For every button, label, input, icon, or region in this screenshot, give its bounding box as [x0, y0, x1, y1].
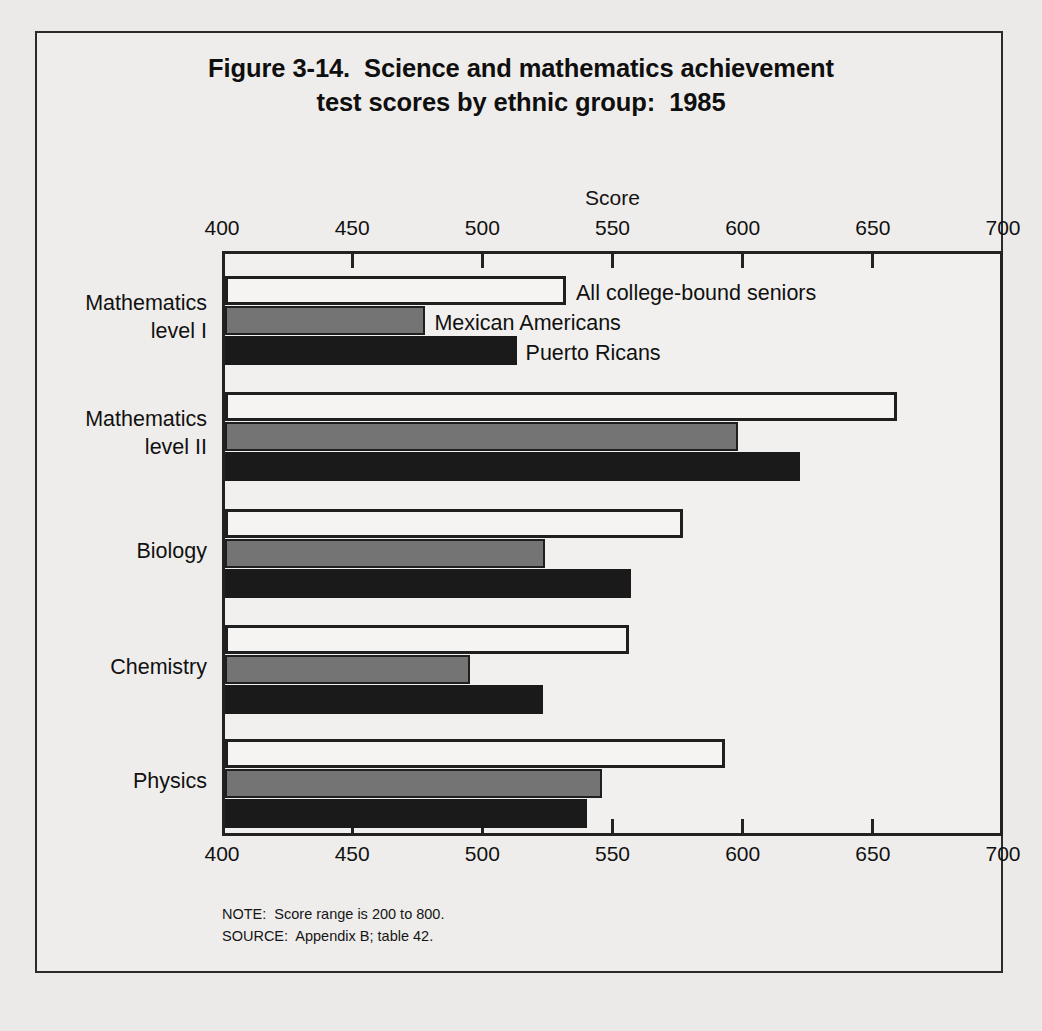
legend-label-puerto-ricans: Puerto Ricans	[526, 343, 661, 365]
category-label-line: Mathematics	[0, 406, 207, 434]
bar-group-biology	[225, 509, 1000, 598]
figure-title: Figure 3-14. Science and mathematics ach…	[0, 52, 1042, 119]
top-tick-mark-550	[611, 254, 614, 268]
x-axis-label: Score	[222, 186, 1003, 210]
top-tick-mark-500	[481, 254, 484, 268]
figure-title-line-1: Figure 3-14. Science and mathematics ach…	[0, 52, 1042, 86]
legend-label-mexican-americans: Mexican Americans	[434, 313, 620, 335]
bottom-axis-tick-650: 650	[855, 842, 890, 866]
category-label-line: Mathematics	[0, 290, 207, 318]
category-label-line: level II	[0, 434, 207, 462]
bar-mathematics-level-ii-puerto-ricans	[225, 452, 800, 481]
bar-chemistry-all-college-bound-seniors	[225, 625, 629, 654]
note-text: NOTE: Score range is 200 to 800.	[222, 903, 444, 925]
source-text: SOURCE: Appendix B; table 42.	[222, 925, 444, 947]
bar-mathematics-level-ii-mexican-americans	[225, 422, 738, 451]
top-tick-mark-450	[351, 254, 354, 268]
category-label-line: level I	[0, 318, 207, 346]
category-label-line: Chemistry	[0, 654, 207, 682]
top-axis-tick-550: 550	[595, 216, 630, 240]
category-label-mathematics-level-i: Mathematicslevel I	[0, 290, 207, 346]
bar-physics-all-college-bound-seniors	[225, 739, 725, 768]
bar-biology-all-college-bound-seniors	[225, 509, 683, 538]
bar-chemistry-puerto-ricans	[225, 685, 543, 714]
top-axis-tick-400: 400	[204, 216, 239, 240]
bar-mathematics-level-i-all-college-bound-seniors	[225, 276, 566, 305]
bar-physics-puerto-ricans	[225, 799, 587, 828]
top-axis-tick-450: 450	[335, 216, 370, 240]
top-axis-tick-500: 500	[465, 216, 500, 240]
bar-group-chemistry	[225, 625, 1000, 714]
category-label-chemistry: Chemistry	[0, 654, 207, 682]
bar-chemistry-mexican-americans	[225, 655, 470, 684]
category-label-line: Physics	[0, 768, 207, 796]
bottom-axis-tick-550: 550	[595, 842, 630, 866]
page-background: Figure 3-14. Science and mathematics ach…	[0, 0, 1042, 1031]
top-axis-tick-600: 600	[725, 216, 760, 240]
bottom-axis-tick-400: 400	[204, 842, 239, 866]
top-tick-mark-600	[741, 254, 744, 268]
category-label-physics: Physics	[0, 768, 207, 796]
bar-physics-mexican-americans	[225, 769, 602, 798]
category-label-line: Biology	[0, 538, 207, 566]
legend-label-all-college-bound-seniors: All college-bound seniors	[576, 283, 816, 305]
bar-biology-puerto-ricans	[225, 569, 631, 598]
bar-mathematics-level-i-puerto-ricans	[225, 336, 517, 365]
category-label-mathematics-level-ii: Mathematicslevel II	[0, 406, 207, 462]
top-tick-mark-650	[871, 254, 874, 268]
category-label-biology: Biology	[0, 538, 207, 566]
bottom-axis-tick-500: 500	[465, 842, 500, 866]
bar-mathematics-level-ii-all-college-bound-seniors	[225, 392, 897, 421]
top-axis-tick-650: 650	[855, 216, 890, 240]
bar-group-physics	[225, 739, 1000, 828]
bottom-axis-tick-700: 700	[985, 842, 1020, 866]
bottom-axis-tick-450: 450	[335, 842, 370, 866]
bottom-axis-tick-600: 600	[725, 842, 760, 866]
figure-notes: NOTE: Score range is 200 to 800. SOURCE:…	[222, 903, 444, 948]
plot-area: Mathematicslevel IMathematicslevel IIBio…	[222, 251, 1003, 836]
figure-title-line-2: test scores by ethnic group: 1985	[0, 86, 1042, 120]
bar-group-mathematics-level-ii	[225, 392, 1000, 481]
bar-mathematics-level-i-mexican-americans	[225, 306, 425, 335]
bar-biology-mexican-americans	[225, 539, 545, 568]
top-axis-tick-700: 700	[985, 216, 1020, 240]
